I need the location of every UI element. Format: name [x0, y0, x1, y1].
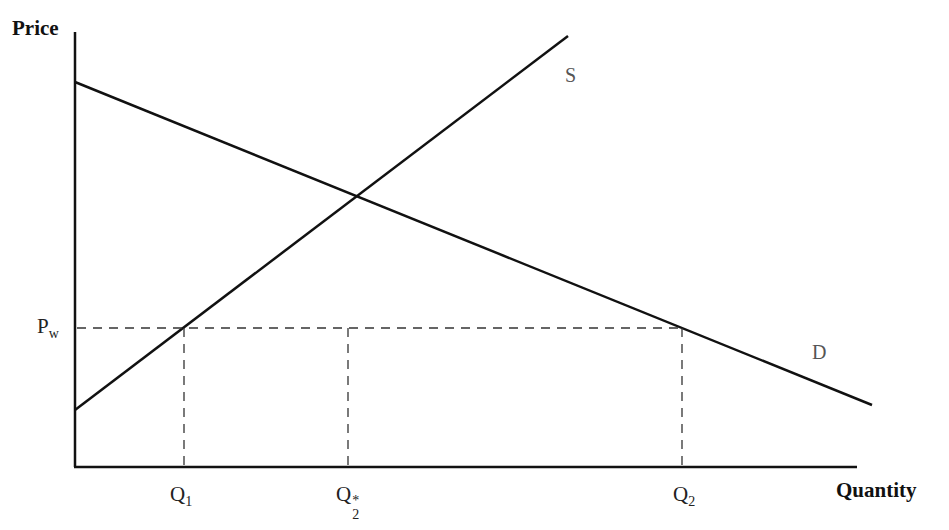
supply-label: S: [565, 64, 576, 87]
demand-label: D: [812, 341, 826, 364]
demand-curve: [75, 82, 872, 405]
q1-tick-label: Q1: [170, 482, 192, 510]
supply-curve: [75, 36, 568, 410]
y-axis-label: Price: [12, 16, 59, 41]
q2star-tick-label: Q*2: [336, 482, 361, 507]
q2-tick-label: Q2: [673, 482, 695, 510]
chart-canvas: [0, 0, 949, 530]
pw-tick-label: Pw: [37, 314, 59, 342]
x-axis-label: Quantity: [836, 478, 917, 503]
